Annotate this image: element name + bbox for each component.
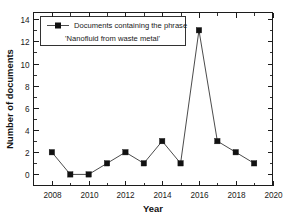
y-tick-label: 2 xyxy=(25,149,30,158)
y-tick-label: 4 xyxy=(25,127,30,136)
x-tick-label: 2012 xyxy=(116,191,135,200)
x-tick-label: 2010 xyxy=(80,191,99,200)
chart-figure: 02468101214 2008201020122014201620182020… xyxy=(0,0,284,220)
x-tick-label: 2018 xyxy=(227,191,246,200)
data-point xyxy=(251,161,256,166)
x-tick-label: 2014 xyxy=(153,191,172,200)
y-tick-label: 8 xyxy=(25,83,30,92)
data-point xyxy=(49,150,54,155)
filled-square-marker xyxy=(55,23,61,29)
data-point xyxy=(104,161,109,166)
y-tick-label: 14 xyxy=(20,16,30,25)
data-point xyxy=(233,150,238,155)
data-point xyxy=(68,172,73,177)
y-axis-title: Number of documents xyxy=(4,49,15,149)
data-point xyxy=(123,150,128,155)
y-tick-label: 6 xyxy=(25,105,30,114)
data-point xyxy=(141,161,146,166)
data-point xyxy=(196,28,201,33)
x-tick-label: 2016 xyxy=(190,191,209,200)
data-point xyxy=(159,138,164,143)
chart-legend: Documents containing the phrase 'Nanoflu… xyxy=(41,17,188,46)
data-point xyxy=(215,138,220,143)
y-tick-label: 10 xyxy=(20,61,30,70)
legend-label-line1: Documents containing the phrase xyxy=(74,21,187,30)
x-axis-title: Year xyxy=(143,203,163,214)
y-tick-label: 12 xyxy=(20,38,30,47)
x-tick-label: 2020 xyxy=(264,191,283,200)
legend-label-line2: 'Nanofluid from waste metal' xyxy=(65,34,160,43)
data-point xyxy=(86,172,91,177)
y-tick-label: 0 xyxy=(25,171,30,180)
x-tick-label: 2008 xyxy=(43,191,62,200)
chart-canvas: 02468101214 2008201020122014201620182020… xyxy=(0,0,284,220)
data-point xyxy=(178,161,183,166)
